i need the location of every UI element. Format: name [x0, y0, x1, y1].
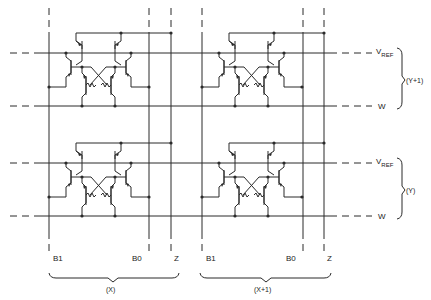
b1-label: B1 — [206, 254, 216, 263]
cell-x1-y — [200, 141, 325, 217]
column-labels-x: B1 B0 Z (X) — [49, 254, 179, 294]
column-brace — [200, 273, 331, 282]
b0-label: B0 — [132, 254, 142, 263]
b0-label: B0 — [286, 254, 296, 263]
column-brace — [49, 273, 179, 282]
column-label: (X) — [106, 286, 115, 294]
z-label: Z — [174, 254, 179, 263]
row-brace — [397, 158, 405, 219]
word-line-label: W — [378, 212, 386, 221]
memory-array-schematic: VREF W (Y+1) VREF W (Y) B1 B0 Z (X) B1 B… — [0, 0, 431, 300]
column-label: (X+1) — [254, 286, 271, 294]
z-label: Z — [327, 254, 332, 263]
b1-label: B1 — [53, 254, 63, 263]
cell-x1-y1 — [200, 31, 325, 107]
word-line-label: W — [378, 102, 386, 111]
cell-x-y1 — [47, 31, 172, 107]
row-y-lines — [10, 163, 372, 216]
bit-lines — [49, 8, 324, 256]
column-labels-x1: B1 B0 Z (X+1) — [200, 254, 332, 294]
row-brace — [397, 48, 405, 109]
row-y-plus-1-lines — [10, 53, 372, 106]
vref-label: VREF — [376, 157, 394, 168]
row-label: (Y) — [406, 187, 415, 195]
row-label-group-y1: VREF W (Y+1) — [376, 47, 423, 111]
row-label: (Y+1) — [406, 77, 423, 85]
vref-label: VREF — [376, 47, 394, 58]
cell-x-y — [47, 141, 172, 217]
row-label-group-y: VREF W (Y) — [376, 157, 415, 221]
